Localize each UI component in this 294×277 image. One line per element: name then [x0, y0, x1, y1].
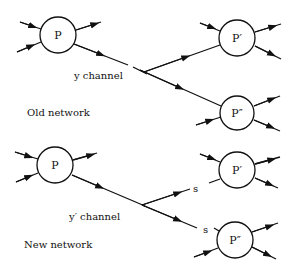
node-p-prime-label: P′ [232, 32, 242, 45]
y-prime-channel-line [72, 175, 145, 206]
node-p-bottom-label: P [51, 159, 59, 172]
node-p-prime-bottom: P′ [219, 152, 255, 188]
node-p-label: P [54, 29, 62, 42]
y-prime-channel-label: y′ channel [68, 211, 120, 222]
branch-to-p-prime [144, 45, 220, 72]
branch-to-p-prime-bottom [142, 189, 190, 205]
old-network: P P′ P″ y channel Old network [17, 17, 281, 131]
branch-to-p-double-prime [140, 70, 221, 106]
node-p-double-prime: P″ [220, 96, 254, 130]
node-p: P [40, 17, 76, 53]
s-label-lower: s [203, 224, 208, 235]
network-diagram: P P′ P″ y channel Old network [0, 0, 294, 277]
node-p-prime: P′ [219, 20, 255, 56]
branch-to-p-double-prime-bottom [142, 205, 197, 228]
node-p-bottom: P [37, 147, 73, 183]
node-p-prime-bottom-label: P′ [232, 164, 242, 177]
s-label-upper: s [193, 183, 198, 194]
node-p-double-prime-bottom: P″ [217, 222, 253, 258]
new-network-caption: New network [24, 239, 93, 250]
new-network: s s P P′ [15, 147, 280, 259]
old-network-caption: Old network [27, 107, 91, 118]
node-p-double-prime-bottom-label: P″ [229, 234, 241, 247]
node-p-double-prime-label: P″ [231, 107, 243, 120]
y-channel-label: y channel [73, 70, 123, 81]
